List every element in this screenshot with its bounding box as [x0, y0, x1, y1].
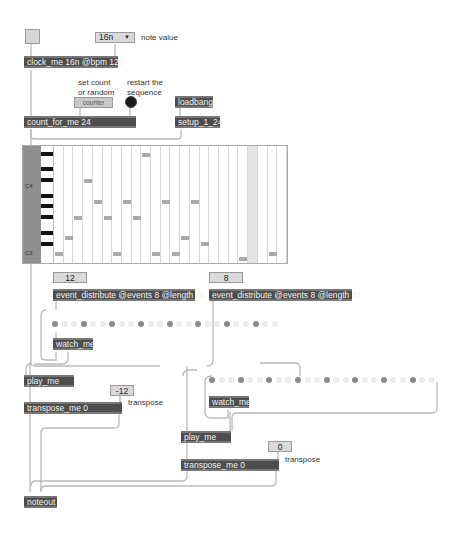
note-event[interactable] [172, 252, 180, 256]
grid-column[interactable] [132, 146, 142, 263]
note-event[interactable] [239, 257, 247, 261]
voice2-play-me[interactable]: play_me [181, 431, 231, 443]
note-event[interactable] [113, 252, 121, 256]
note-event[interactable] [152, 252, 160, 256]
note-event[interactable] [94, 200, 102, 204]
count-for-me-object[interactable]: count_for_me 24 [24, 116, 136, 128]
piano-keyboard[interactable] [41, 146, 54, 263]
voice2-step-dots [209, 376, 449, 384]
black-key[interactable] [41, 194, 53, 198]
step-dot [390, 377, 396, 383]
step-dot [381, 377, 387, 383]
note-event[interactable] [142, 153, 150, 157]
step-dot [209, 377, 215, 383]
grid-column[interactable] [161, 146, 171, 263]
step-dot [224, 321, 230, 327]
note-grid[interactable] [54, 146, 287, 263]
setup-object[interactable]: setup_1_24 [175, 116, 220, 128]
step-dot [233, 321, 239, 327]
restart-comment: restart the sequence [127, 78, 163, 98]
step-dot [214, 321, 220, 327]
note-value-menu[interactable]: 16n ▼ [95, 32, 135, 43]
step-dot [62, 321, 68, 327]
step-dot [333, 377, 339, 383]
black-key[interactable] [41, 215, 53, 219]
grid-column[interactable] [151, 146, 161, 263]
step-dot [262, 321, 268, 327]
step-dot [343, 377, 349, 383]
note-event[interactable] [74, 216, 82, 220]
clock-object[interactable]: clock_me 16n @bpm 120 [24, 56, 118, 68]
voice1-transpose-me[interactable]: transpose_me 0 [24, 402, 122, 414]
piano-roll-sidebar: C4 C3 [23, 146, 41, 263]
step-dot [119, 321, 125, 327]
note-event[interactable] [133, 216, 141, 220]
voice1-event-distribute[interactable]: event_distribute @events 8 @length 24 [53, 289, 195, 301]
voice2-watch-me[interactable]: watch_me [209, 396, 249, 408]
step-dot [400, 377, 406, 383]
step-dot [305, 377, 311, 383]
restart-bang[interactable] [125, 96, 137, 108]
note-event[interactable] [191, 200, 199, 204]
black-key[interactable] [41, 242, 53, 246]
grid-column[interactable] [180, 146, 190, 263]
voice1-play-me[interactable]: play_me [24, 375, 74, 387]
note-event[interactable] [65, 236, 73, 240]
grid-column[interactable] [141, 146, 151, 263]
note-event[interactable] [162, 200, 170, 204]
note-event[interactable] [181, 236, 189, 240]
step-dot [272, 321, 278, 327]
voice2-event-distribute[interactable]: event_distribute @events 8 @length 24 [209, 289, 352, 301]
grid-column[interactable] [83, 146, 93, 263]
step-dot [186, 321, 192, 327]
grid-column[interactable] [219, 146, 229, 263]
grid-column[interactable] [268, 146, 278, 263]
grid-column[interactable] [73, 146, 83, 263]
note-event[interactable] [269, 252, 277, 256]
note-event[interactable] [123, 200, 131, 204]
voice2-transpose-number[interactable]: 0 [268, 441, 292, 452]
toggle[interactable] [25, 29, 40, 44]
voice1-watch-me[interactable]: watch_me [53, 338, 93, 350]
counter-message[interactable]: counter [74, 97, 113, 108]
step-dot [81, 321, 87, 327]
voice2-offset-number[interactable]: 8 [209, 272, 243, 283]
grid-column[interactable] [122, 146, 132, 263]
note-event[interactable] [84, 179, 92, 183]
black-key[interactable] [41, 152, 53, 156]
grid-column[interactable] [248, 146, 258, 263]
note-event[interactable] [201, 242, 209, 246]
step-dot [157, 321, 163, 327]
black-key[interactable] [41, 178, 53, 182]
grid-column[interactable] [277, 146, 287, 263]
voice1-offset-number[interactable]: 12 [53, 272, 87, 283]
noteout-object[interactable]: noteout [24, 496, 57, 508]
grid-column[interactable] [93, 146, 103, 263]
step-dot [71, 321, 77, 327]
grid-column[interactable] [238, 146, 248, 263]
step-dot [100, 321, 106, 327]
loadbang-object[interactable]: loadbang [175, 96, 213, 108]
grid-column[interactable] [258, 146, 268, 263]
step-dot [138, 321, 144, 327]
black-key[interactable] [41, 167, 53, 171]
grid-column[interactable] [171, 146, 181, 263]
grid-column[interactable] [64, 146, 74, 263]
note-event[interactable] [104, 216, 112, 220]
step-dot [314, 377, 320, 383]
grid-column[interactable] [54, 146, 64, 263]
grid-column[interactable] [112, 146, 122, 263]
note-event[interactable] [55, 252, 63, 256]
voice2-transpose-me[interactable]: transpose_me 0 [181, 459, 279, 471]
grid-column[interactable] [103, 146, 113, 263]
patch-cords [0, 0, 462, 537]
grid-column[interactable] [229, 146, 239, 263]
black-key[interactable] [41, 204, 53, 208]
piano-roll[interactable]: C4 C3 [22, 145, 288, 264]
grid-column[interactable] [190, 146, 200, 263]
step-dot [228, 377, 234, 383]
step-dot [371, 377, 377, 383]
grid-column[interactable] [209, 146, 219, 263]
black-key[interactable] [41, 231, 53, 235]
voice1-transpose-number[interactable]: -12 [110, 385, 134, 396]
